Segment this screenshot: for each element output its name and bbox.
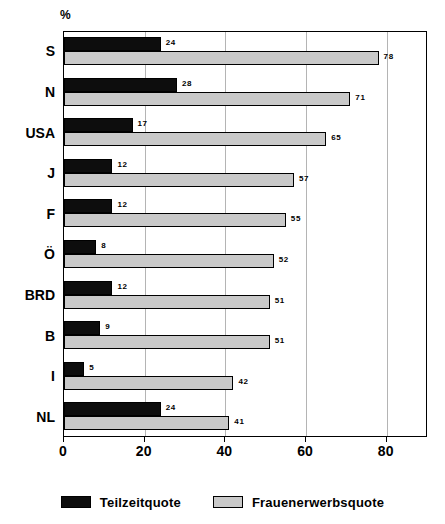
category-axis-labels: SNUSAJFÖBRDBINL (0, 31, 55, 437)
x-tick-label-40: 40 (217, 443, 233, 459)
category-label-F: F (3, 206, 55, 222)
x-axis: 020406080 (63, 437, 427, 467)
category-label-NL: NL (3, 409, 55, 425)
bar-N-frauenerwerbsquote (64, 92, 350, 106)
bar-value-label: 5 (89, 363, 94, 373)
legend-item-2: Frauenerwerbsquote (213, 495, 384, 510)
bar-value-label: 41 (234, 417, 244, 427)
bar-group: 852 (64, 235, 426, 275)
x-tick-60 (305, 437, 306, 442)
bar-S-frauenerwerbsquote (64, 51, 379, 65)
category-label-N: N (3, 84, 55, 100)
bar-value-label: 12 (117, 200, 127, 210)
bar-I-teilzeitquote (64, 362, 84, 376)
bar-value-label: 42 (238, 377, 248, 387)
bar-N-teilzeitquote (64, 78, 177, 92)
bar-group: 951 (64, 316, 426, 356)
bar-group: 2478 (64, 32, 426, 72)
legend-item-1: Teilzeitquote (61, 495, 181, 510)
bar-value-label: 65 (331, 133, 341, 143)
bar-NL-frauenerwerbsquote (64, 416, 229, 430)
x-tick-40 (224, 437, 225, 442)
bar-value-label: 55 (291, 214, 301, 224)
bar-B-teilzeitquote (64, 321, 100, 335)
bar-value-label: 8 (101, 241, 106, 251)
x-tick-label-80: 80 (378, 443, 394, 459)
bar-value-label: 52 (279, 255, 289, 265)
bar-BRD-teilzeitquote (64, 281, 112, 295)
bar-B-frauenerwerbsquote (64, 335, 270, 349)
x-tick-label-60: 60 (297, 443, 313, 459)
bar-group: 2441 (64, 397, 426, 437)
bar-value-label: 12 (117, 282, 127, 292)
x-tick-label-20: 20 (136, 443, 152, 459)
bar-J-teilzeitquote (64, 159, 112, 173)
legend-swatch-black (61, 496, 91, 508)
legend-label: Teilzeitquote (100, 495, 181, 510)
bar-value-label: 24 (166, 38, 176, 48)
category-label-I: I (3, 368, 55, 384)
bar-value-label: 57 (299, 174, 309, 184)
bar-value-label: 17 (138, 119, 148, 129)
bar-group: 1257 (64, 154, 426, 194)
plot-area: 2478287117651257125585212519515422441 (63, 31, 427, 437)
category-label-B: B (3, 328, 55, 344)
bar-value-label: 28 (182, 79, 192, 89)
bar-F-teilzeitquote (64, 199, 112, 213)
category-label-J: J (3, 165, 55, 181)
x-tick-label-0: 0 (59, 443, 67, 459)
bar-NL-teilzeitquote (64, 402, 161, 416)
bar-F-frauenerwerbsquote (64, 213, 286, 227)
y-axis-unit-label: % (60, 8, 71, 22)
chart-legend: TeilzeitquoteFrauenerwerbsquote (0, 490, 445, 514)
bar-BRD-frauenerwerbsquote (64, 295, 270, 309)
bar-value-label: 51 (275, 296, 285, 306)
legend-swatch-gray (213, 496, 243, 508)
bar-group: 1251 (64, 276, 426, 316)
bar-Ö-teilzeitquote (64, 240, 96, 254)
bar-value-label: 71 (355, 93, 365, 103)
bar-value-label: 78 (384, 52, 394, 62)
bar-I-frauenerwerbsquote (64, 376, 233, 390)
bar-group: 542 (64, 357, 426, 397)
bar-value-label: 12 (117, 160, 127, 170)
bar-S-teilzeitquote (64, 37, 161, 51)
category-label-BRD: BRD (3, 287, 55, 303)
bar-J-frauenerwerbsquote (64, 173, 294, 187)
legend-label: Frauenerwerbsquote (252, 495, 384, 510)
bar-USA-teilzeitquote (64, 118, 133, 132)
bar-value-label: 24 (166, 403, 176, 413)
x-tick-80 (386, 437, 387, 442)
x-tick-0 (63, 437, 64, 442)
category-label-Ö: Ö (3, 246, 55, 262)
bar-group: 1765 (64, 113, 426, 153)
bar-group: 1255 (64, 194, 426, 234)
bar-value-label: 9 (105, 322, 110, 332)
x-tick-20 (144, 437, 145, 442)
bar-group: 2871 (64, 73, 426, 113)
category-label-USA: USA (3, 125, 55, 141)
bar-USA-frauenerwerbsquote (64, 132, 326, 146)
bar-Ö-frauenerwerbsquote (64, 254, 274, 268)
bar-value-label: 51 (275, 336, 285, 346)
category-label-S: S (3, 43, 55, 59)
